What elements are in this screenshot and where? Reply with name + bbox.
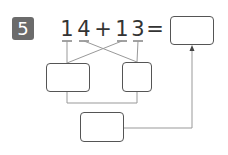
ones-sum-box[interactable] bbox=[122, 62, 152, 92]
tens-sum-box[interactable] bbox=[46, 63, 90, 92]
combined-sum-box[interactable] bbox=[80, 112, 124, 142]
arrow-head-icon bbox=[190, 45, 195, 51]
answer-box[interactable] bbox=[170, 16, 214, 45]
